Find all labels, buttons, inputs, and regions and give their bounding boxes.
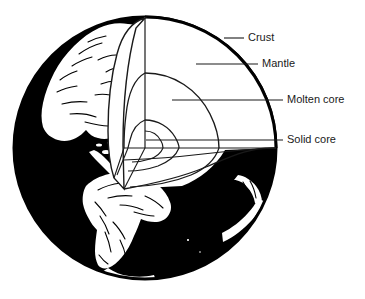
earth-cutaway-diagram: Crust Mantle Molten core Solid core: [0, 0, 365, 299]
label-mantle: Mantle: [262, 57, 295, 69]
label-molten-core: Molten core: [287, 93, 344, 105]
label-crust: Crust: [248, 31, 274, 43]
label-solid-core: Solid core: [287, 133, 336, 145]
